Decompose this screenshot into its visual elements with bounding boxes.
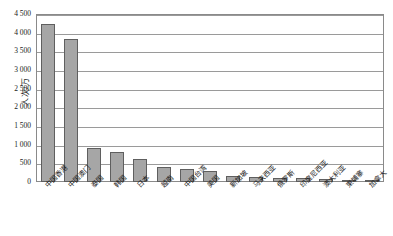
bars-layer	[36, 14, 384, 182]
bar-slot	[338, 14, 361, 182]
bar-slot	[82, 14, 105, 182]
y-axis-tick-label: 2 500	[14, 85, 31, 93]
bar-slot	[175, 14, 198, 182]
y-axis-tick-label: 2 000	[14, 104, 31, 112]
y-axis-tick-label: 0	[27, 178, 31, 186]
bar-slot	[314, 14, 337, 182]
y-axis-tick-label: 500	[20, 160, 31, 168]
y-axis-tick-label: 3 000	[14, 66, 31, 74]
y-axis-tick-label: 4 500	[14, 10, 31, 18]
y-axis-tick-label: 3 500	[14, 48, 31, 56]
bar-slot	[36, 14, 59, 182]
bar-slot	[361, 14, 384, 182]
bar-slot	[245, 14, 268, 182]
y-axis-tick-labels: 05001 0001 5002 0002 5003 0003 5004 0004…	[0, 14, 34, 182]
bar-slot	[291, 14, 314, 182]
bar-slot	[222, 14, 245, 182]
bar-slot	[129, 14, 152, 182]
x-axis-tick-labels: 中国香港中国澳门泰国韩国日本越南中国台湾美国新加坡马来西亚俄罗斯印度尼西亚澳大利…	[36, 184, 384, 236]
y-axis-tick-label: 4 000	[14, 29, 31, 37]
bar-chart: 人次/万 05001 0001 5002 0002 5003 0003 5004…	[0, 0, 393, 236]
y-axis-tick-label: 1 500	[14, 122, 31, 130]
bar-slot	[268, 14, 291, 182]
bar[interactable]	[41, 24, 55, 182]
bar[interactable]	[64, 39, 78, 182]
bar-slot	[152, 14, 175, 182]
bar-slot	[59, 14, 82, 182]
bar-slot	[106, 14, 129, 182]
y-axis-tick-label: 1 000	[14, 141, 31, 149]
bar-slot	[198, 14, 221, 182]
